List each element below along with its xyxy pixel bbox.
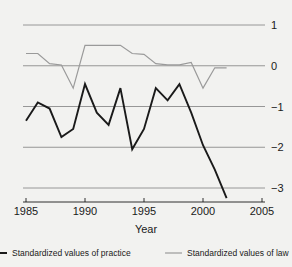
y-tick-label: −3	[271, 182, 284, 194]
legend-label-practice: Standardized values of practice	[12, 248, 131, 258]
y-tick-label: −2	[271, 141, 284, 153]
chart-container: 19851990199520002005 10−1−2−3 Year Stand…	[0, 0, 292, 267]
y-tick-label: 1	[271, 19, 277, 31]
x-axis-title: Year	[135, 223, 158, 235]
y-tick-label: 0	[271, 60, 277, 72]
y-tick-label: −1	[271, 101, 284, 113]
legend-label-law: Standardized values of law	[187, 248, 289, 258]
x-tick-label: 2005	[250, 205, 274, 217]
line-chart: 19851990199520002005 10−1−2−3 Year Stand…	[0, 0, 292, 267]
x-tick-label: 1995	[132, 205, 156, 217]
x-tick-label: 2000	[191, 205, 215, 217]
x-tick-label: 1985	[14, 205, 38, 217]
x-tick-label: 1990	[73, 205, 97, 217]
